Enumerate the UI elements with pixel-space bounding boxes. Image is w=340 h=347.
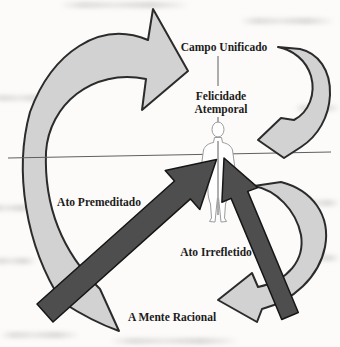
standing-person-head: [212, 122, 224, 137]
label-campo-unificado: Campo Unificado: [181, 41, 268, 54]
label-a-mente-racional: A Mente Racional: [128, 311, 216, 324]
label-ato-premeditado: Ato Premeditado: [57, 196, 141, 209]
curved-return-arrow-top-icon: [258, 47, 330, 158]
large-curved-arrow-icon: [23, 9, 188, 331]
label-ato-irrefletido: Ato Irrefletido: [180, 246, 252, 259]
label-felicidade-line1: Felicidade: [194, 90, 247, 103]
label-felicidade-atemporal: Felicidade Atemporal: [194, 90, 247, 116]
label-felicidade-line2: Atemporal: [194, 103, 247, 116]
